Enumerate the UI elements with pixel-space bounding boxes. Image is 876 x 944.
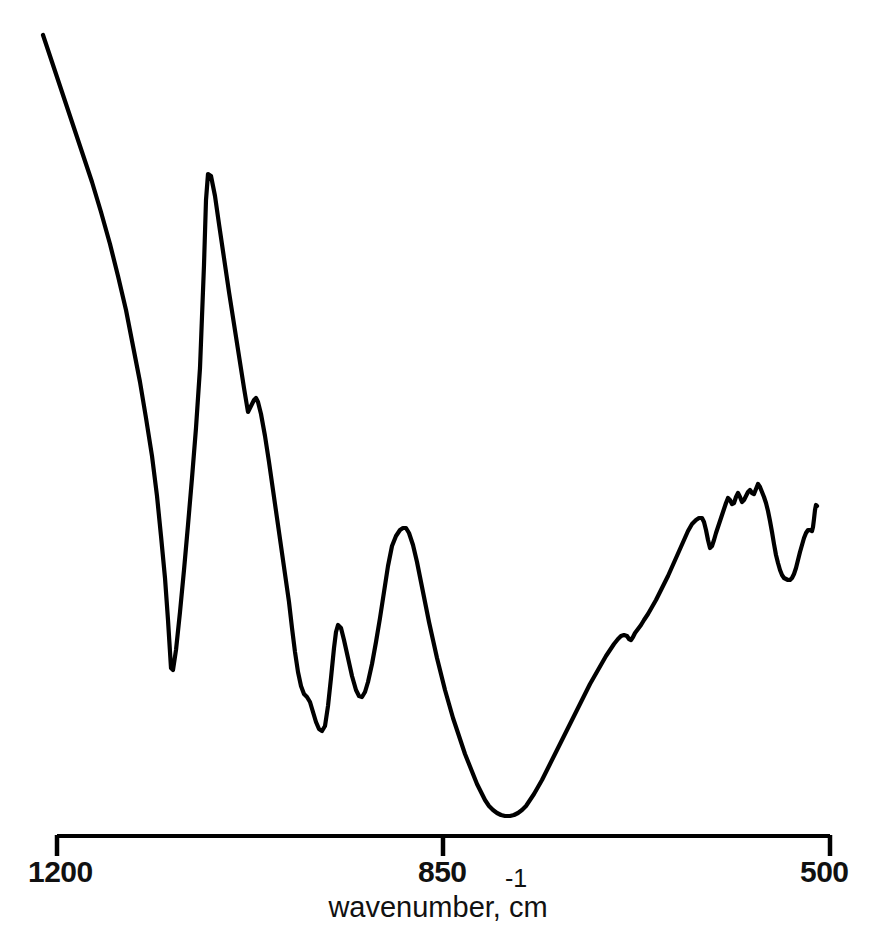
spectrum-plot-area <box>0 0 876 944</box>
x-axis-title: wavenumber, cm <box>0 893 876 922</box>
ir-spectrum-figure: 1200 850 500 wavenumber, cm -1 <box>0 0 876 944</box>
x-tick-label-1200: 1200 <box>28 857 93 887</box>
x-axis-title-text: wavenumber, cm <box>328 891 547 923</box>
figure-background <box>0 0 876 944</box>
x-axis-title-exponent: -1 <box>505 866 527 891</box>
x-tick-label-500: 500 <box>800 857 849 887</box>
x-tick-label-850: 850 <box>418 857 467 887</box>
